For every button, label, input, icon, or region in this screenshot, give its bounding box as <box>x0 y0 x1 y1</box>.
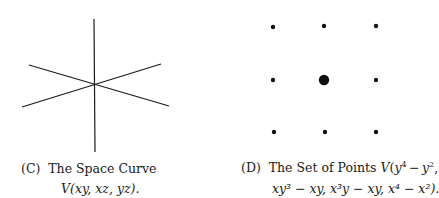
caption-d-label: (D) <box>241 160 261 175</box>
caption-c-text: The Space Curve <box>48 161 156 176</box>
point-marker <box>271 78 275 82</box>
caption-c-line2: V(xy, xz, yz). <box>61 182 139 196</box>
curve-line <box>22 64 161 107</box>
curve-line <box>94 19 95 152</box>
point-marker <box>323 130 327 134</box>
caption-d-line1: (D) The Set of Points V(y4 − y2, <box>241 161 438 175</box>
curve-line <box>29 65 169 106</box>
space-curve-figure <box>22 19 169 152</box>
point-marker <box>271 25 275 29</box>
point-marker <box>272 130 276 134</box>
caption-c-label: (C) <box>21 161 40 176</box>
caption-d-text: The Set of Points V(y4 − y2, <box>269 160 438 175</box>
caption-c-line1: (C) The Space Curve <box>21 162 156 176</box>
point-marker <box>374 130 378 134</box>
point-marker <box>374 24 378 28</box>
point-marker <box>322 24 326 28</box>
point-marker <box>374 78 378 82</box>
point-marker <box>319 75 329 85</box>
point-set-figure <box>271 24 378 134</box>
caption-d-line2: xy³ − xy, x³y − xy, x⁴ − x²). <box>272 182 439 196</box>
